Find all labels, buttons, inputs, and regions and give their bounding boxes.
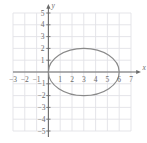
y-tick-label: 4: [41, 20, 45, 29]
y-tick-label: −4: [38, 115, 46, 124]
x-axis: [13, 70, 141, 74]
x-tick-label: 3: [82, 75, 86, 84]
coordinate-plane-svg: −3 −2 −1 1 2 3 4 5 6 7 5 4 3 2 1 −1 −2 −…: [0, 0, 147, 143]
x-tick-label: 4: [94, 75, 98, 84]
y-tick-label: 1: [41, 56, 45, 65]
y-tick-label: 2: [41, 44, 45, 53]
x-tick-label: −3: [9, 75, 17, 84]
x-tick-label: 6: [117, 75, 121, 84]
x-axis-arrow: [136, 70, 141, 74]
x-axis-label: x: [142, 63, 147, 72]
x-tick-label: −2: [21, 75, 29, 84]
y-axis-arrow: [46, 4, 50, 9]
y-tick-label: 5: [41, 9, 45, 18]
graph-figure: −3 −2 −1 1 2 3 4 5 6 7 5 4 3 2 1 −1 −2 −…: [0, 0, 147, 143]
x-tick-label: 5: [106, 75, 110, 84]
x-tick-labels: −3 −2 −1 1 2 3 4 5 6 7: [9, 75, 133, 84]
x-tick-label: 1: [58, 75, 62, 84]
x-tick-label: 2: [70, 75, 74, 84]
y-tick-label: −3: [38, 103, 46, 112]
y-tick-label: −1: [38, 79, 46, 88]
y-tick-label: 3: [41, 32, 45, 41]
y-tick-label: −2: [38, 91, 46, 100]
y-tick-label: −5: [38, 127, 46, 136]
y-axis-label: y: [51, 1, 56, 10]
x-tick-label: 7: [129, 75, 133, 84]
